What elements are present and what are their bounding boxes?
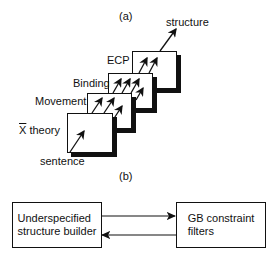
feedback-arrows <box>0 0 279 262</box>
